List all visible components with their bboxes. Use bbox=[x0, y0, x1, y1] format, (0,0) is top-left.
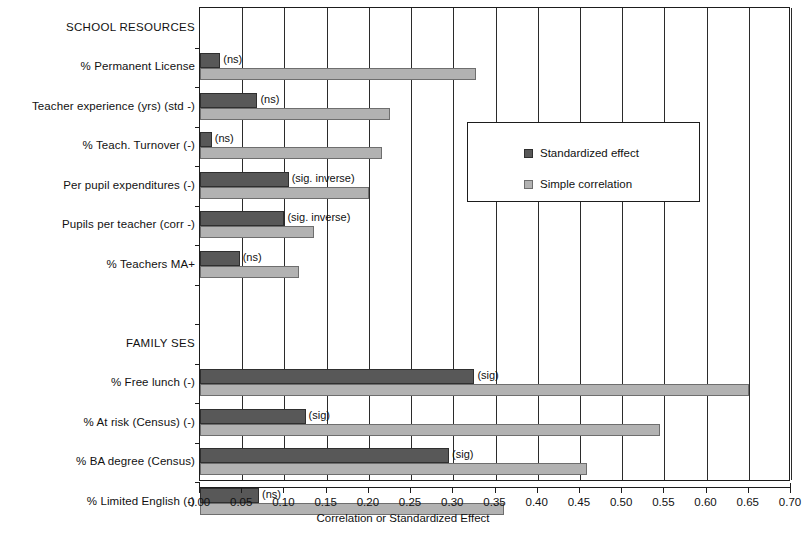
category-label: Per pupil expenditures (-) bbox=[63, 179, 195, 191]
y-axis-tick bbox=[195, 206, 200, 207]
x-axis-tick bbox=[199, 483, 200, 493]
gridline-vertical bbox=[791, 8, 792, 480]
bar-simple-correlation bbox=[200, 108, 390, 120]
category-label: % BA degree (Census) bbox=[76, 455, 195, 467]
bar-simple-correlation bbox=[200, 187, 369, 199]
x-axis-tick bbox=[663, 487, 664, 493]
bar-simple-correlation bbox=[200, 147, 382, 159]
x-axis-tick bbox=[706, 487, 707, 493]
legend-item-simple-correlation: Simple correlation bbox=[524, 178, 632, 190]
category-label: % Free lunch (-) bbox=[111, 376, 195, 388]
gridline-vertical bbox=[580, 8, 581, 480]
x-axis-title: Correlation or Standardized Effect bbox=[0, 512, 806, 524]
bar-annotation: (sig. inverse) bbox=[292, 173, 355, 184]
plot-area: (ns)(ns)(ns)(sig. inverse)(sig. inverse)… bbox=[199, 7, 790, 481]
bar-simple-correlation bbox=[200, 226, 314, 238]
x-axis-tick bbox=[241, 487, 242, 493]
bar-annotation: (sig) bbox=[309, 410, 330, 421]
x-axis-tick bbox=[283, 487, 284, 493]
gridline-vertical bbox=[707, 8, 708, 480]
y-axis-tick bbox=[195, 166, 200, 167]
category-label: % At risk (Census) (-) bbox=[84, 416, 195, 428]
legend-swatch-icon-standardized-effect bbox=[524, 149, 533, 158]
x-axis-tick bbox=[579, 487, 580, 493]
bar-simple-correlation bbox=[200, 424, 660, 436]
x-axis-tick-label: 0.30 bbox=[441, 496, 463, 508]
x-axis-tick bbox=[410, 487, 411, 493]
x-axis-tick-label: 0.45 bbox=[568, 496, 590, 508]
gridline-vertical bbox=[622, 8, 623, 480]
bar-standardized-effect bbox=[200, 53, 220, 68]
bar-simple-correlation bbox=[200, 463, 587, 475]
bar-annotation: (sig) bbox=[452, 449, 473, 460]
bar-standardized-effect bbox=[200, 93, 257, 108]
y-axis-tick bbox=[195, 364, 200, 365]
chart-root: (ns)(ns)(ns)(sig. inverse)(sig. inverse)… bbox=[0, 0, 806, 535]
x-axis-tick bbox=[495, 487, 496, 493]
category-label: % Limited English (-) bbox=[87, 495, 195, 507]
x-axis-tick bbox=[326, 487, 327, 493]
x-axis-tick-label: 0.25 bbox=[399, 496, 421, 508]
x-axis-tick-label: 0.20 bbox=[357, 496, 379, 508]
y-axis-tick bbox=[195, 48, 200, 49]
bar-annotation: (ns) bbox=[223, 54, 242, 65]
y-axis-tick bbox=[195, 285, 200, 286]
legend-item-standardized-effect: Standardized effect bbox=[524, 147, 639, 159]
category-label: Teacher experience (yrs) (std -) bbox=[32, 100, 195, 112]
bar-standardized-effect bbox=[200, 369, 474, 384]
x-axis-tick-label: 0.40 bbox=[526, 496, 548, 508]
category-label: % Teach. Turnover (-) bbox=[83, 139, 195, 151]
y-axis-tick bbox=[195, 403, 200, 404]
bar-simple-correlation bbox=[200, 68, 476, 80]
bar-annotation: (ns) bbox=[215, 133, 234, 144]
category-label: SCHOOL RESOURCES bbox=[66, 21, 195, 33]
x-axis-tick bbox=[368, 487, 369, 493]
x-axis-tick bbox=[790, 483, 791, 493]
legend-label-standardized-effect: Standardized effect bbox=[540, 147, 639, 159]
bar-standardized-effect bbox=[200, 132, 212, 147]
x-axis-tick-label: 0.70 bbox=[779, 496, 801, 508]
x-axis-tick bbox=[748, 487, 749, 493]
x-axis-tick bbox=[537, 487, 538, 493]
y-axis-tick bbox=[195, 443, 200, 444]
category-label: % Permanent License bbox=[81, 60, 195, 72]
bar-standardized-effect bbox=[200, 211, 284, 226]
bar-simple-correlation bbox=[200, 266, 299, 278]
x-axis-tick bbox=[452, 487, 453, 493]
x-axis-tick-label: 0.05 bbox=[230, 496, 252, 508]
legend-label-simple-correlation: Simple correlation bbox=[540, 178, 632, 190]
bar-simple-correlation bbox=[200, 384, 749, 396]
legend-swatch-icon-simple-correlation bbox=[524, 180, 533, 189]
x-axis-tick-label: 0.10 bbox=[272, 496, 294, 508]
bar-annotation: (ns) bbox=[243, 252, 262, 263]
chart-legend: Standardized effect Simple correlation bbox=[467, 122, 700, 202]
bar-standardized-effect bbox=[200, 448, 449, 463]
bar-annotation: (sig) bbox=[477, 370, 498, 381]
bar-standardized-effect bbox=[200, 251, 240, 266]
y-axis-tick bbox=[195, 127, 200, 128]
y-axis-tick bbox=[195, 245, 200, 246]
bar-standardized-effect bbox=[200, 409, 306, 424]
bar-annotation: (ns) bbox=[260, 94, 279, 105]
x-axis-tick-label: 0.55 bbox=[652, 496, 674, 508]
category-label: FAMILY SES bbox=[126, 337, 195, 349]
gridline-vertical bbox=[538, 8, 539, 480]
x-axis-tick-label: 0.50 bbox=[610, 496, 632, 508]
gridline-vertical bbox=[664, 8, 665, 480]
x-axis-tick-label: 0.15 bbox=[314, 496, 336, 508]
gridline-vertical bbox=[749, 8, 750, 480]
x-axis-tick-label: 0.60 bbox=[694, 496, 716, 508]
gridline-vertical bbox=[496, 8, 497, 480]
x-axis-tick-label: 0.35 bbox=[483, 496, 505, 508]
y-axis-tick bbox=[195, 324, 200, 325]
bar-standardized-effect bbox=[200, 172, 289, 187]
y-axis-tick bbox=[195, 87, 200, 88]
x-axis-tick-label: 0.65 bbox=[737, 496, 759, 508]
x-axis-tick bbox=[621, 487, 622, 493]
category-label: Pupils per teacher (corr -) bbox=[62, 218, 195, 230]
bar-annotation: (sig. inverse) bbox=[287, 212, 350, 223]
x-axis: 0.000.050.100.150.200.250.300.350.400.45… bbox=[199, 487, 790, 488]
category-label: % Teachers MA+ bbox=[107, 258, 195, 270]
